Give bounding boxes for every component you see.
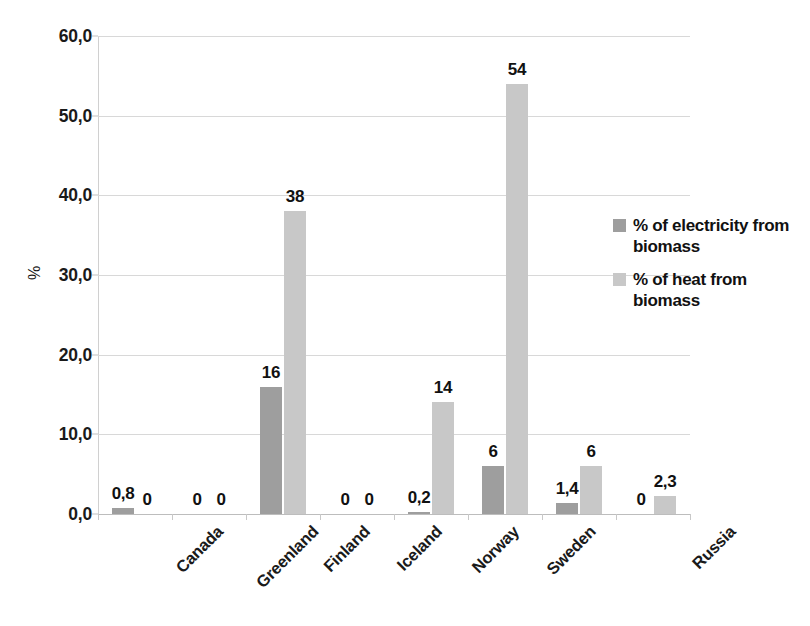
bar <box>432 402 454 514</box>
x-axis-tick-mark <box>542 514 543 520</box>
bar <box>506 84 528 514</box>
bar-chart: % 0,010,020,030,040,050,060,0 0,80001638… <box>0 0 810 626</box>
bar-value-label: 14 <box>434 378 452 398</box>
bar-value-label: 0,2 <box>408 488 431 508</box>
x-axis-tick-mark <box>98 514 99 520</box>
legend-item: % of electricity from biomass <box>613 215 803 258</box>
bar-value-label: 16 <box>262 363 280 383</box>
x-axis-category-label: Greenland <box>252 522 322 592</box>
bar-value-label: 0 <box>340 490 349 510</box>
x-axis-tick-mark <box>172 514 173 520</box>
bar <box>654 496 676 514</box>
y-axis-tick-label: 0,0 <box>20 504 92 525</box>
bar-value-label: 6 <box>488 442 497 462</box>
legend-label: % of heat from biomass <box>633 269 803 312</box>
y-axis-ticks: 0,010,020,030,040,050,060,0 <box>0 36 92 514</box>
bar-group: 0,214 <box>394 36 468 514</box>
x-axis-category-label: Russia <box>689 522 740 573</box>
bar-group: 654 <box>468 36 542 514</box>
bar-group: 1,46 <box>542 36 616 514</box>
legend-label: % of electricity from biomass <box>633 215 803 258</box>
x-axis-category-label: Finland <box>320 522 374 576</box>
y-axis-tick-label: 20,0 <box>20 344 92 365</box>
bar-value-label: 0 <box>216 490 225 510</box>
legend-swatch <box>613 219 626 232</box>
x-axis-category-label: Canada <box>172 522 227 577</box>
bar-group: 00 <box>320 36 394 514</box>
x-axis-tick-mark <box>394 514 395 520</box>
bar <box>556 503 578 514</box>
bar-value-label: 2,3 <box>654 472 677 492</box>
bar <box>284 211 306 514</box>
y-axis-tick-label: 50,0 <box>20 105 92 126</box>
bar-group: 1638 <box>246 36 320 514</box>
bar <box>260 387 282 514</box>
bar-value-label: 1,4 <box>556 479 579 499</box>
x-axis-tick-mark <box>690 514 691 520</box>
bar <box>482 466 504 514</box>
bar-value-label: 38 <box>286 187 304 207</box>
bar-value-label: 0 <box>636 490 645 510</box>
bar <box>580 466 602 514</box>
x-axis-tick-mark <box>616 514 617 520</box>
bar-group: 00 <box>172 36 246 514</box>
bar-value-label: 0 <box>192 490 201 510</box>
y-axis-tick-label: 10,0 <box>20 424 92 445</box>
x-axis-tick-mark <box>468 514 469 520</box>
y-axis-tick-label: 40,0 <box>20 185 92 206</box>
bar-group: 0,80 <box>98 36 172 514</box>
plot-area: 0,80001638000,2146541,4602,3 <box>98 36 690 514</box>
x-axis-tick-mark <box>320 514 321 520</box>
legend-swatch <box>613 273 626 286</box>
bar-value-label: 6 <box>586 442 595 462</box>
y-axis-tick-label: 30,0 <box>20 265 92 286</box>
x-axis-labels: CanadaGreenlandFinlandIcelandNorwaySwede… <box>98 514 690 626</box>
legend-item: % of heat from biomass <box>613 269 803 312</box>
x-axis-tick-mark <box>246 514 247 520</box>
bar-value-label: 0,8 <box>112 484 135 504</box>
bar-value-label: 0 <box>364 490 373 510</box>
bar-value-label: 54 <box>508 60 526 80</box>
x-axis-category-label: Norway <box>468 522 523 577</box>
x-axis-category-label: Iceland <box>393 522 446 575</box>
y-axis-tick-label: 60,0 <box>20 26 92 47</box>
x-axis-category-label: Sweden <box>543 522 600 579</box>
chart-legend: % of electricity from biomass% of heat f… <box>613 215 803 322</box>
bar-value-label: 0 <box>142 490 151 510</box>
